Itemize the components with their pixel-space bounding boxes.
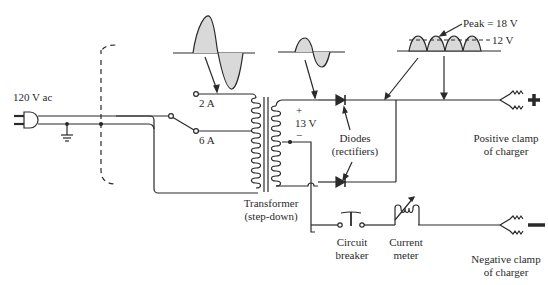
peak-voltage-label: Peak = 18 V	[463, 17, 518, 29]
transformer-label-line2: (step-down)	[236, 210, 306, 222]
diodes-label-line2: (rectifiers)	[325, 145, 385, 157]
breaker-label-line1: Circuit	[330, 236, 374, 248]
positive-clamp-icon	[500, 91, 540, 109]
positive-clamp-label-line1: Positive clamp	[464, 132, 548, 144]
ground-icon	[61, 123, 73, 141]
secondary-voltage-label: 13 V	[295, 117, 317, 129]
transformer-primary-coil-icon	[252, 94, 261, 188]
secondary-minus-label: −	[296, 129, 302, 141]
meter-label-line2: meter	[384, 249, 428, 261]
tap-6a-label: 6 A	[199, 134, 215, 146]
ac-plug-icon	[14, 112, 38, 128]
secondary-plus-label: +	[296, 104, 302, 116]
circuit-breaker-icon	[311, 212, 364, 227]
selector-switch-icon	[169, 92, 199, 134]
average-voltage-label: 12 V	[492, 34, 514, 46]
meter-label-line1: Current	[384, 236, 428, 248]
negative-clamp-label-line1: Negative clamp	[464, 253, 548, 265]
rectified-waveform-icon	[385, 24, 501, 99]
diodes-label-line1: Diodes	[325, 132, 385, 144]
source-voltage-label: 120 V ac	[13, 91, 52, 103]
negative-clamp-label-line2: of charger	[464, 266, 548, 278]
primary-sine-waveform-icon	[173, 15, 255, 92]
breaker-label-line2: breaker	[330, 249, 374, 261]
positive-clamp-label-line2: of charger	[464, 145, 548, 157]
secondary-sine-waveform-icon	[278, 38, 345, 98]
diode-top-icon	[336, 95, 345, 105]
transformer-secondary-coil-icon	[272, 100, 283, 186]
tap-2a-label: 2 A	[199, 97, 215, 109]
current-meter-icon	[395, 197, 419, 225]
charger-circuit-diagram: 120 V ac 2 A 6 A + 13 V − Diodes (rectif…	[0, 0, 548, 285]
negative-clamp-icon	[500, 216, 545, 234]
transformer-label-line1: Transformer	[236, 197, 306, 209]
